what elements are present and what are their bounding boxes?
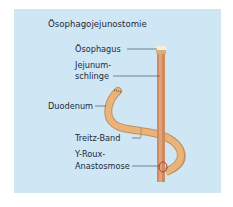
- figure-title: Ösophagojejunostomie: [48, 19, 147, 29]
- label-roux-2: Anastosmose: [75, 161, 130, 171]
- label-duodenum: Duodenum: [48, 101, 93, 111]
- label-treitz: Treitz-Band: [75, 133, 121, 143]
- anatomy-illustration: [0, 0, 233, 207]
- label-roux-1: Y-Roux-: [75, 149, 105, 159]
- label-oesophagus: Ösophagus: [75, 44, 121, 54]
- label-jejunum-1: Jejunum-: [75, 60, 111, 70]
- label-jejunum-2: schlinge: [75, 71, 109, 81]
